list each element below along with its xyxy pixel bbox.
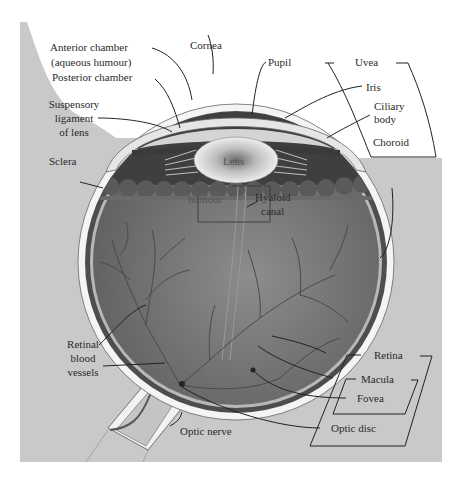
label-canal: canal	[261, 205, 284, 218]
label-optic-disc: Optic disc	[331, 422, 376, 435]
label-body: body	[374, 113, 396, 126]
label-retinal: Retinal	[62, 338, 104, 351]
label-choroid: Choroid	[373, 136, 409, 149]
label-retina: Retina	[374, 349, 403, 362]
optic-disc-dot	[179, 381, 185, 387]
label-aqueous-humour: (aqueous humour)	[51, 56, 131, 69]
label-of-lens: of lens	[46, 126, 102, 139]
label-hyaloid: Hyaloid	[255, 191, 290, 204]
label-optic-nerve: Optic nerve	[180, 425, 232, 438]
label-blood: blood	[62, 352, 104, 365]
eye-diagram: Anterior chamber (aqueous humour) Poster…	[0, 0, 467, 480]
label-lens: Lens	[223, 155, 244, 168]
label-anterior-chamber: Anterior chamber	[50, 41, 128, 54]
label-sclera: Sclera	[49, 155, 76, 168]
label-posterior-chamber: Posterior chamber	[52, 71, 132, 84]
label-iris: Iris	[366, 81, 381, 94]
label-cornea: Cornea	[190, 39, 222, 52]
label-fovea: Fovea	[357, 392, 384, 405]
label-ligament: ligament	[46, 112, 102, 125]
label-humour: humour	[188, 193, 222, 206]
fovea-dot	[251, 368, 256, 373]
label-vessels: vessels	[62, 366, 104, 379]
label-suspensory: Suspensory	[46, 98, 102, 111]
label-uvea: Uvea	[355, 56, 378, 69]
background-cutout-right	[330, 0, 467, 158]
label-macula: Macula	[361, 373, 394, 386]
label-ciliary: Ciliary	[374, 100, 405, 113]
label-pupil: Pupil	[268, 56, 291, 69]
